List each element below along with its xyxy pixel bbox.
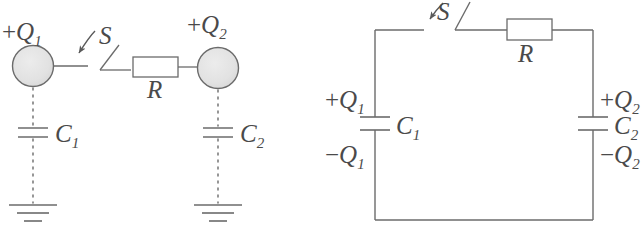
branch-capacitor-2 xyxy=(203,90,233,203)
resistor-left xyxy=(133,57,198,77)
capacitor-left-plates xyxy=(360,117,390,130)
ground-symbol-1 xyxy=(9,205,57,221)
ground-symbol-2 xyxy=(194,205,242,221)
switch-right[interactable] xyxy=(455,2,470,30)
label-resistor-right: R xyxy=(517,40,533,67)
right-panel: S R +Q1 −Q1 C1 +Q2 −Q2 C2 xyxy=(325,0,640,220)
left-panel: +Q1 +Q2 S R C1 C2 xyxy=(2,11,265,221)
label-capacitor-left: C1 xyxy=(396,112,420,143)
circuit-figure: +Q1 +Q2 S R C1 C2 xyxy=(0,0,643,244)
label-left-cap-top-charge: +Q1 xyxy=(325,86,365,117)
charged-sphere-2 xyxy=(198,48,239,89)
switch-pointer-arrow-left xyxy=(79,31,95,53)
label-left-cap-bottom-charge: −Q1 xyxy=(325,141,365,172)
branch-capacitor-1 xyxy=(18,88,48,203)
label-capacitor-1: C1 xyxy=(55,120,79,151)
label-capacitor-2: C2 xyxy=(240,120,265,151)
capacitor-right-plates xyxy=(578,117,608,130)
label-switch-left: S xyxy=(99,22,112,49)
label-sphere2-charge: +Q2 xyxy=(187,11,227,42)
charged-sphere-1 xyxy=(13,46,54,87)
label-sphere1-charge: +Q1 xyxy=(2,18,42,49)
resistor-right xyxy=(507,19,552,40)
label-resistor-left: R xyxy=(146,76,162,103)
label-switch-right: S xyxy=(437,0,450,25)
label-right-cap-bottom-charge: −Q2 xyxy=(600,141,640,172)
